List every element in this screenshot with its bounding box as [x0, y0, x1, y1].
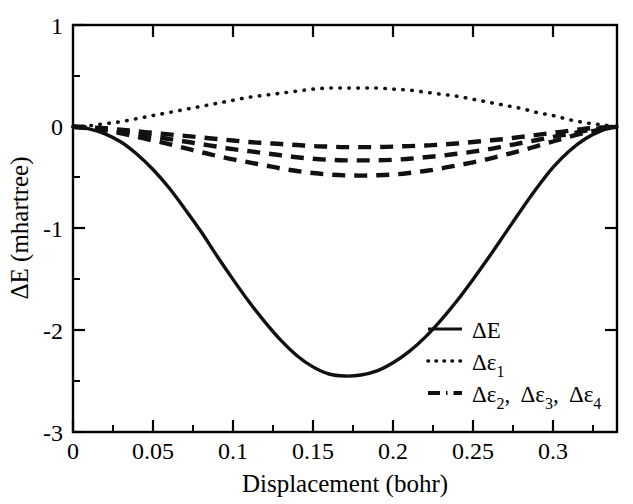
- y-tick-label-neg1: -1: [43, 216, 63, 242]
- x-tick-label-025: 0.25: [452, 438, 494, 464]
- x-tick-label-01: 0.1: [218, 438, 248, 464]
- legend-label-delta-e: ΔE: [472, 318, 501, 343]
- y-tick-label-neg2: -2: [43, 318, 63, 344]
- x-tick-label-03: 0.3: [538, 438, 568, 464]
- energy-displacement-chart: 1 0 -1 -2 -3 0 0.05 0.1 0.15 0.2 0.25 0.…: [0, 0, 633, 504]
- x-axis-title: Displacement (bohr): [242, 470, 448, 498]
- x-tick-label-0: 0: [67, 438, 79, 464]
- chart-background: [0, 0, 633, 504]
- y-tick-label-0: 0: [51, 114, 63, 140]
- y-tick-label-1: 1: [51, 13, 63, 39]
- x-tick-label-005: 0.05: [132, 438, 174, 464]
- x-tick-labels: 0 0.05 0.1 0.15 0.2 0.25 0.3: [67, 438, 568, 464]
- x-tick-label-02: 0.2: [378, 438, 408, 464]
- x-tick-label-015: 0.15: [292, 438, 334, 464]
- y-tick-label-neg3: -3: [43, 420, 63, 446]
- y-axis-title: ΔE (mhartree): [6, 156, 34, 299]
